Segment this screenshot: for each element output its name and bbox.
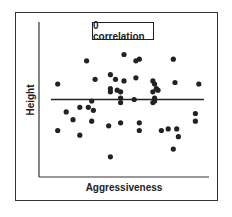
data-point — [113, 77, 118, 82]
data-point — [77, 133, 82, 138]
data-point — [77, 105, 82, 110]
data-point — [70, 117, 75, 122]
data-point — [91, 108, 96, 113]
data-point — [108, 72, 113, 77]
data-point — [137, 120, 142, 125]
data-point — [93, 77, 98, 82]
data-point — [86, 105, 91, 110]
data-point — [152, 81, 157, 86]
data-point — [159, 128, 164, 133]
data-point — [89, 119, 94, 124]
data-point — [121, 78, 126, 83]
data-point — [118, 120, 123, 125]
data-point — [172, 80, 177, 85]
data-point — [106, 123, 111, 128]
data-point — [166, 126, 171, 131]
data-point — [64, 109, 69, 114]
x-axis-label: Aggressiveness — [39, 182, 209, 193]
data-point — [118, 100, 123, 105]
data-points — [55, 52, 201, 159]
data-point — [132, 97, 137, 102]
data-point — [152, 95, 157, 100]
data-point — [84, 58, 89, 63]
data-point — [193, 111, 198, 116]
data-point — [174, 126, 179, 131]
data-point — [171, 57, 176, 62]
data-point — [121, 52, 126, 57]
data-point — [193, 119, 198, 124]
data-point — [137, 128, 142, 133]
data-point — [55, 128, 60, 133]
data-point — [89, 98, 94, 103]
data-point — [118, 89, 123, 94]
data-point — [155, 88, 160, 93]
chart-title: 0 correlation — [92, 22, 154, 40]
data-point — [108, 86, 113, 91]
y-axis-label: Height — [25, 70, 39, 130]
data-point — [137, 57, 142, 62]
data-point — [118, 95, 123, 100]
data-point — [196, 81, 201, 86]
data-point — [108, 154, 113, 159]
data-point — [55, 81, 60, 86]
data-point — [176, 134, 181, 139]
data-point — [171, 147, 176, 152]
data-point — [133, 75, 138, 80]
